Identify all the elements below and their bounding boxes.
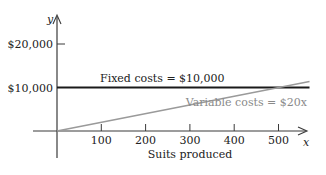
fixed-costs-label: Fixed costs = $10,000 [100,72,225,85]
y-tick-label: $10,000 [8,82,54,95]
x-axis-label: Suits produced [148,148,232,161]
x-tick-label: 200 [135,134,156,147]
x-tick-label: 100 [91,134,112,147]
y-axis-symbol: y [46,13,54,26]
x-ticks: 100200300400500 [91,124,289,147]
y-ticks: $10,000$20,000 [8,38,66,95]
x-tick-label: 400 [224,134,245,147]
cost-chart: y x $10,000$20,000 100200300400500 Suits… [0,0,326,175]
x-tick-label: 500 [268,134,289,147]
y-tick-label: $20,000 [8,38,54,51]
variable-costs-label: Variable costs = $20x [185,96,308,109]
x-tick-label: 300 [179,134,200,147]
x-axis-symbol: x [303,136,310,149]
